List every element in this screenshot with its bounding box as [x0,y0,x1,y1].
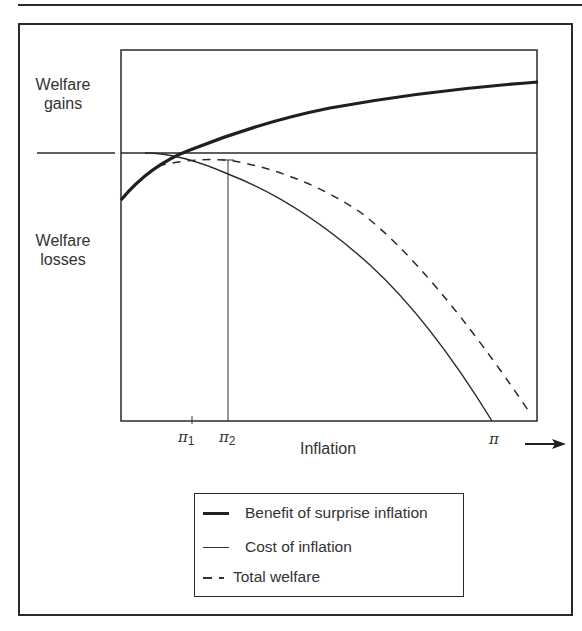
plot-area [121,50,537,421]
dashed-line-swatch-icon [203,572,225,582]
y-label-gains-line2: gains [18,94,108,113]
thin-line-swatch-icon [203,542,231,552]
tick-pi2-symbol: π [219,428,229,446]
y-label-losses-line2: losses [18,250,108,269]
benefit-curve [121,82,538,200]
y-label-gains-line1: Welfare [18,75,108,94]
thick-line-swatch-icon [203,508,231,518]
tick-pi1: π1 [178,428,195,448]
total-welfare-curve [158,160,530,413]
tick-pi2-sub: 2 [229,434,236,448]
tick-pi: π [489,430,499,448]
legend-label-total: Total welfare [233,568,320,586]
tick-pi1-symbol: π [178,428,188,446]
legend: Benefit of surprise inflation Cost of in… [194,493,464,597]
y-label-losses: Welfare losses [18,231,108,269]
legend-item-benefit: Benefit of surprise inflation [203,503,428,523]
legend-item-total: Total welfare [203,567,320,587]
tick-pi1-sub: 1 [188,434,195,448]
legend-label-cost: Cost of inflation [245,538,352,556]
legend-label-benefit: Benefit of surprise inflation [245,504,428,522]
tick-pi2: π2 [219,428,236,448]
tick-pi-symbol: π [489,430,499,448]
cost-curve [145,153,492,421]
legend-item-cost: Cost of inflation [203,537,352,557]
x-axis-label: Inflation [300,440,356,458]
y-label-losses-line1: Welfare [18,231,108,250]
y-label-gains: Welfare gains [18,75,108,113]
